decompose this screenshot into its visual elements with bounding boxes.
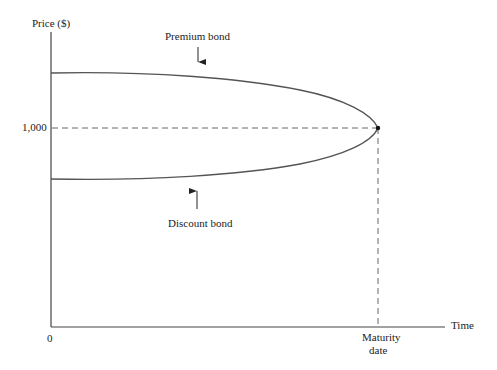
- premium-bond-curve: [51, 73, 378, 128]
- maturity-label-line2: date: [369, 344, 387, 356]
- discount-bond-label: Discount bond: [168, 217, 232, 229]
- premium-bond-label: Premium bond: [165, 30, 230, 42]
- maturity-point: [376, 126, 380, 130]
- maturity-label-line1: Maturity: [362, 331, 401, 343]
- chart-canvas: [0, 0, 497, 370]
- x-axis-label: Time: [451, 319, 474, 331]
- y-axis-label: Price ($): [32, 17, 70, 29]
- discount-bond-curve: [51, 128, 378, 179]
- y-tick-1000: 1,000: [22, 121, 47, 133]
- origin-label: 0: [47, 332, 53, 344]
